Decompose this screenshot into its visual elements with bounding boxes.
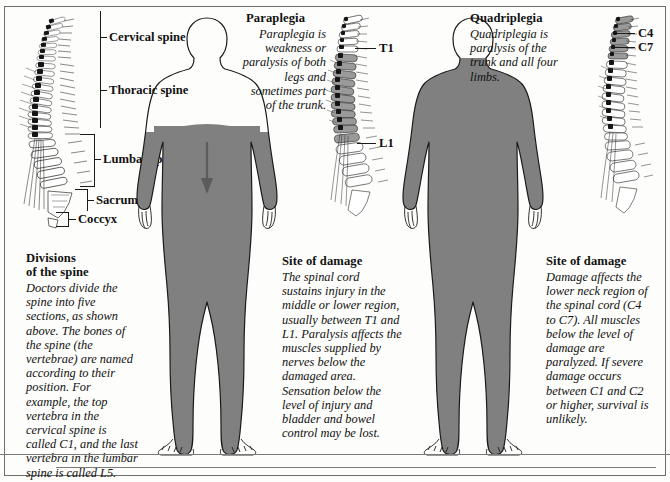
spinal-cord-injury-figure: Cervical spine Thoracic spine Lumbar spi… bbox=[0, 0, 670, 482]
bracket-lumbar bbox=[94, 134, 95, 186]
bracket-lumbar-tick bbox=[94, 159, 101, 160]
leader-line-l1 bbox=[357, 143, 376, 144]
bracket-sacrum-top bbox=[75, 189, 88, 190]
vertebra-label-c4: C4 bbox=[638, 26, 653, 41]
left-caption-heading-line1: Divisions bbox=[26, 252, 76, 266]
paraplegia-heading: Paraplegia bbox=[246, 12, 305, 26]
quadriplegia-description: Quadriplegia is paralysis of the trunk a… bbox=[470, 27, 566, 84]
vertebra-label-c7: C7 bbox=[638, 40, 653, 55]
bracket-coccyx-bottom bbox=[56, 226, 69, 227]
leader-line-c7 bbox=[615, 47, 635, 48]
ground-line-back bbox=[0, 454, 670, 455]
left-caption-body: Doctors divide the spine into five secti… bbox=[26, 281, 138, 480]
leader-line-t1 bbox=[355, 48, 376, 49]
bracket-coccyx-tick bbox=[68, 219, 76, 220]
middle-caption-heading: Site of damage bbox=[282, 255, 362, 269]
vertebra-label-l1: L1 bbox=[379, 136, 394, 151]
bracket-lumbar-top bbox=[80, 134, 95, 135]
bracket-thoracic-tick bbox=[100, 90, 107, 91]
bracket-coccyx-top bbox=[56, 212, 69, 213]
vertebra-label-t1: T1 bbox=[379, 41, 394, 56]
right-caption-heading: Site of damage bbox=[546, 255, 626, 269]
paraplegia-description: Paraplegia is weakness or paralysis of b… bbox=[238, 27, 326, 112]
spine-label-coccyx: Coccyx bbox=[78, 212, 117, 227]
bracket-cervical-tick bbox=[100, 37, 107, 38]
left-caption-heading-line2: of the spine bbox=[26, 266, 89, 280]
right-caption-body: Damage affects the lower neck region of … bbox=[546, 270, 654, 426]
leader-line-c4 bbox=[617, 33, 635, 34]
quadriplegia-heading: Quadriplegia bbox=[470, 12, 543, 26]
middle-caption-body: The spinal cord sustains injury in the m… bbox=[282, 270, 402, 440]
bracket-lumbar-bottom bbox=[80, 186, 95, 187]
ground-line-front bbox=[56, 467, 656, 468]
bracket-thoracic bbox=[100, 63, 101, 128]
bracket-sacrum-tick bbox=[87, 200, 94, 201]
